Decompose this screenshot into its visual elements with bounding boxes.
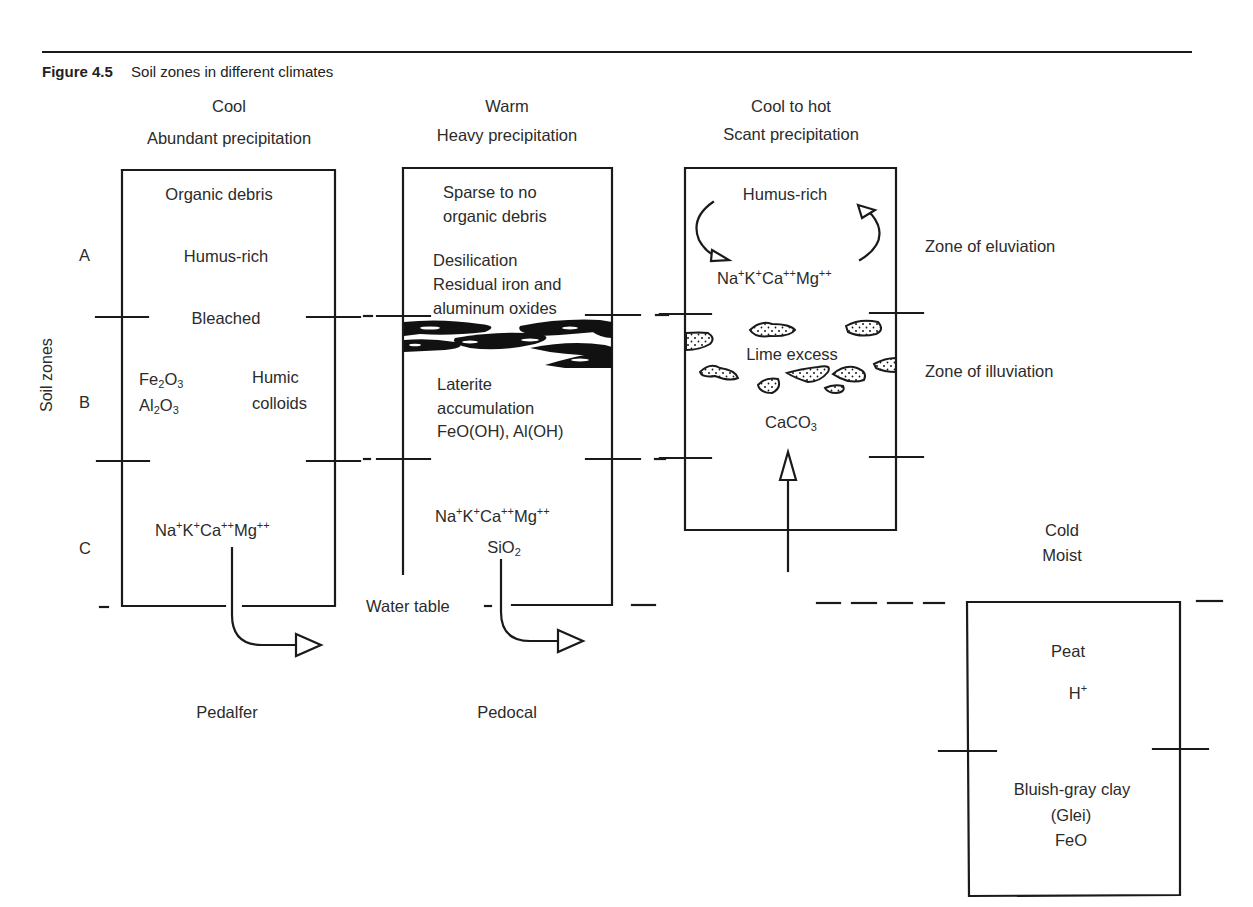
col1-climate-temp: Cool — [212, 98, 246, 115]
col3-climate-precip: Scant precipitation — [723, 126, 859, 143]
col1-cations: Na+K+Ca++Mg++ — [155, 522, 270, 539]
col2-feooh-aloh: FeO(OH), Al(OH) — [437, 423, 564, 440]
col2-climate-temp: Warm — [485, 98, 528, 115]
col3-humus-rich: Humus-rich — [743, 186, 827, 203]
zone-of-illuviation: Zone of illuviation — [925, 363, 1053, 380]
col1-al2o3: Al2O3 — [139, 397, 179, 414]
col4-climate-moisture: Moist — [1042, 547, 1081, 564]
col2-organic-debris: organic debris — [443, 208, 547, 225]
col2-residual-iron: Residual iron and — [433, 276, 561, 293]
col4-climate-temp: Cold — [1045, 522, 1079, 539]
col2-laterite: Laterite — [437, 376, 492, 393]
col1-colloids: colloids — [252, 395, 307, 412]
col1-organic-debris: Organic debris — [165, 186, 272, 203]
col4-glei: (Glei) — [1051, 807, 1091, 824]
col1-bleached: Bleached — [192, 310, 261, 327]
soil-type-pedocal: Pedocal — [477, 704, 537, 721]
zone-label-a: A — [79, 247, 90, 264]
col4-hydrogen-ion: H+ — [1069, 685, 1087, 702]
col2-cations: Na+K+Ca++Mg++ — [435, 508, 550, 525]
zone-label-c: C — [79, 540, 91, 557]
col4-bluish-gray-clay: Bluish-gray clay — [1014, 781, 1130, 798]
col1-humus-rich: Humus-rich — [184, 248, 268, 265]
col2-accumulation: accumulation — [437, 400, 534, 417]
col3-cations: Na+K+Ca++Mg++ — [717, 270, 832, 287]
col3-climate-temp: Cool to hot — [751, 98, 831, 115]
zone-label-b: B — [79, 394, 90, 411]
soil-type-pedalfer: Pedalfer — [196, 704, 257, 721]
col2-desilication: Desilication — [433, 252, 517, 269]
col1-climate-precip: Abundant precipitation — [147, 130, 311, 147]
col2-sio2: SiO2 — [487, 539, 521, 556]
col4-peat: Peat — [1051, 643, 1085, 660]
pedalfer-profile-box — [96, 170, 360, 656]
col2-aluminum-oxides: aluminum oxides — [433, 300, 557, 317]
col1-fe2o3: Fe2O3 — [139, 371, 183, 388]
zone-of-eluviation: Zone of eluviation — [925, 238, 1055, 255]
soil-zones-axis-label: Soil zones — [38, 338, 56, 412]
col2-sparse: Sparse to no — [443, 184, 537, 201]
col4-feo: FeO — [1055, 832, 1087, 849]
water-table-label: Water table — [366, 598, 450, 615]
col2-climate-precip: Heavy precipitation — [437, 127, 577, 144]
col3-caco3: CaCO3 — [765, 414, 817, 431]
col3-lime-excess: Lime excess — [746, 346, 838, 363]
col1-humic: Humic — [252, 369, 299, 386]
